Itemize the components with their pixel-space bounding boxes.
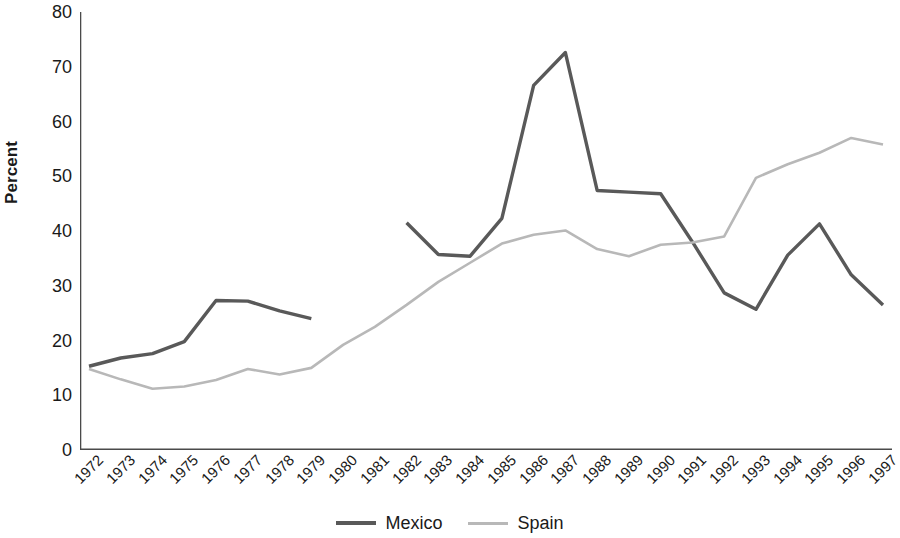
- y-axis-tick-labels: 01020304050607080: [20, 0, 72, 538]
- legend-entry-spain: Spain: [468, 514, 563, 532]
- chart-legend: MexicoSpain: [0, 508, 900, 538]
- y-axis-tick-label: 60: [28, 113, 72, 131]
- y-axis-tick-label: 30: [28, 277, 72, 295]
- chart-figure: Percent 01020304050607080 19721973197419…: [0, 0, 900, 538]
- y-axis-tick-label: 20: [28, 332, 72, 350]
- axis-lines: [80, 12, 892, 450]
- line-chart-svg: [80, 12, 892, 450]
- legend-entry-mexico: Mexico: [336, 514, 442, 532]
- data-series: [89, 53, 883, 389]
- legend-swatch-mexico: [336, 521, 376, 525]
- series-line-mexico: [89, 301, 311, 367]
- y-axis-tick-label: 10: [28, 386, 72, 404]
- y-axis-tick-label: 40: [28, 222, 72, 240]
- y-axis-tick-label: 0: [28, 441, 72, 459]
- series-line-spain: [89, 138, 883, 389]
- x-axis-tick-labels: 1972197319741975197619771978197919801981…: [80, 452, 892, 512]
- legend-label: Mexico: [385, 514, 442, 532]
- plot-area: [80, 12, 892, 450]
- legend-label: Spain: [517, 514, 563, 532]
- series-line-mexico: [407, 53, 883, 310]
- y-axis-tick-label: 80: [28, 3, 72, 21]
- legend-swatch-spain: [468, 522, 508, 525]
- y-axis-tick-label: 50: [28, 167, 72, 185]
- y-axis-tick-label: 70: [28, 58, 72, 76]
